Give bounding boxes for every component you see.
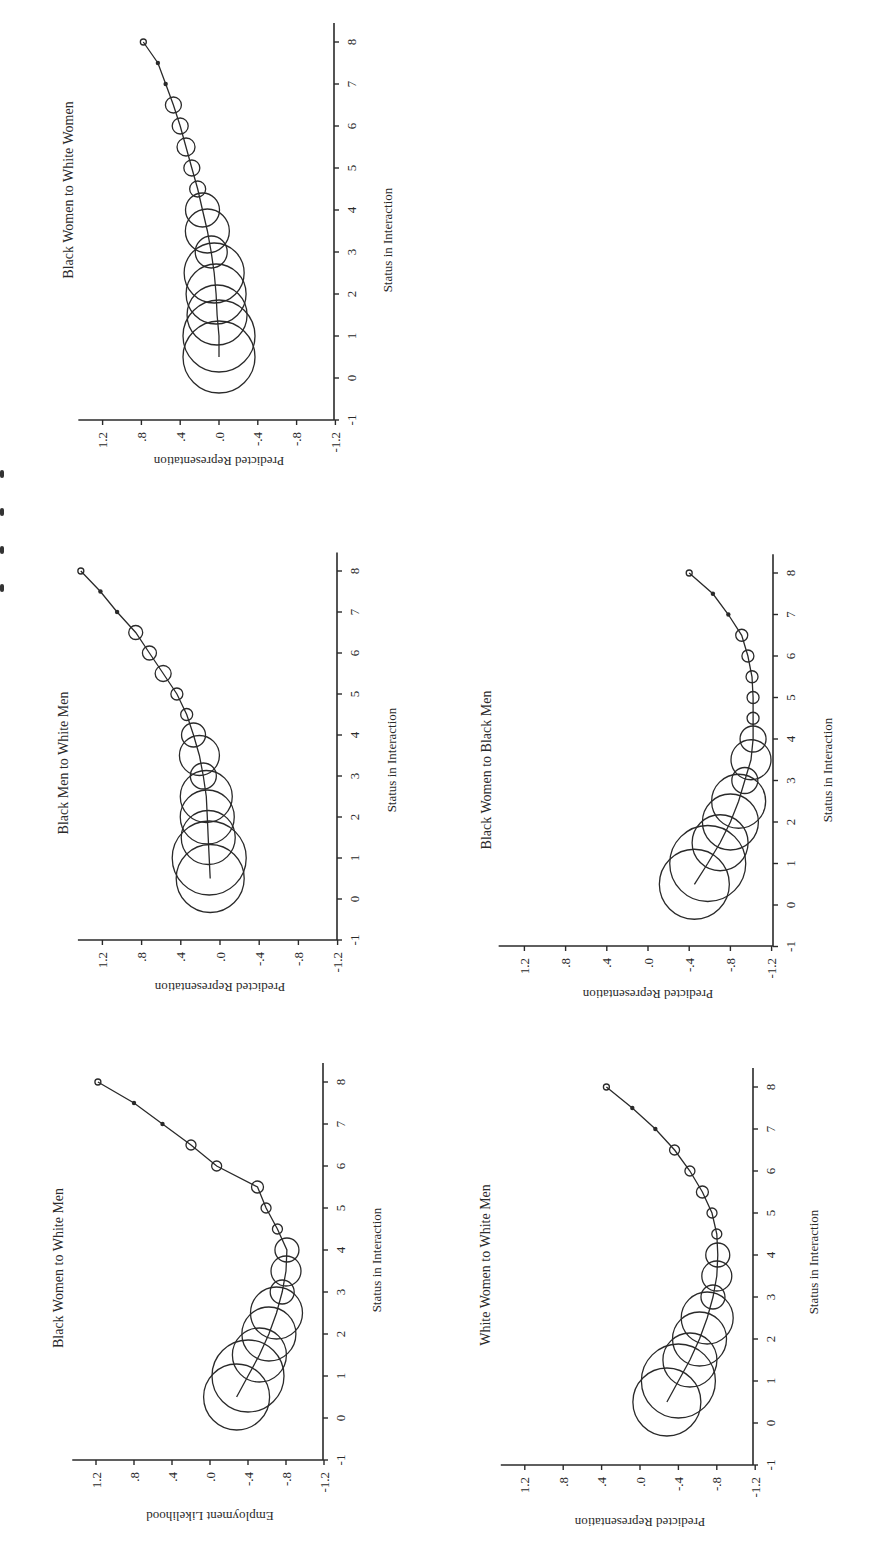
plot-area: 1.2.8.4.0-.4-.8-1.2-1012345678: [501, 1068, 778, 1497]
value-tick-label: -.4: [241, 1472, 256, 1487]
status-tick-label: 7: [344, 80, 359, 87]
status-tick-label: 6: [763, 1167, 778, 1174]
status-tick-label: 5: [333, 1205, 348, 1212]
status-tick-label: 0: [333, 1415, 348, 1422]
status-tick-label: 6: [347, 649, 362, 656]
value-tick-label: .4: [599, 958, 614, 968]
value-tick-label: .4: [594, 1477, 609, 1487]
value-tick-label: .0: [641, 958, 656, 968]
status-tick-label: 6: [783, 652, 798, 659]
y-axis-label: Predicted Representation: [153, 454, 284, 469]
status-tick-label: -1: [763, 1460, 778, 1471]
status-tick-label: 2: [347, 814, 362, 821]
status-tick-label: 3: [333, 1289, 348, 1296]
status-tick-label: 7: [333, 1120, 348, 1127]
value-tick-label: 1.2: [95, 432, 110, 448]
clipped-caption-fragment: [0, 470, 4, 810]
status-tick-label: 3: [783, 777, 798, 784]
status-tick-label: 2: [783, 819, 798, 826]
status-tick-label: 1: [763, 1378, 778, 1385]
plot-area: 1.2.8.4.0-.4-.8-1.2-1012345678: [499, 554, 798, 978]
plot-area: 1.2.8.4.0-.4-.8-1.2-1012345678: [72, 1063, 347, 1492]
status-tick-label: 2: [333, 1331, 348, 1338]
value-tick-label: -.4: [671, 1477, 686, 1492]
value-tick-label: -.4: [250, 432, 265, 447]
status-tick-label: 4: [344, 206, 359, 213]
value-tick-label: .8: [558, 958, 573, 968]
status-tick-label: 7: [763, 1125, 778, 1132]
value-tick-label: -.4: [252, 952, 267, 967]
fitted-curve: [606, 1087, 717, 1402]
status-tick-label: 8: [344, 39, 359, 46]
value-tick-label: .0: [212, 432, 227, 442]
status-tick-label: 6: [344, 122, 359, 129]
value-tick-label: -1.2: [764, 958, 779, 979]
panel-white-women-to-white-men: White Women to White Men Predicted Repre…: [478, 1068, 821, 1530]
value-tick-label: .8: [134, 432, 149, 442]
figure-page: Black Women to White Women Predicted Rep…: [0, 0, 874, 1566]
status-tick-label: 1: [347, 855, 362, 862]
status-tick-label: 3: [344, 249, 359, 256]
panel-title: Black Women to White Women: [61, 101, 76, 278]
figure-canvas: Black Women to White Women Predicted Rep…: [0, 0, 874, 1566]
status-tick-label: -1: [333, 1455, 348, 1466]
panel-title: White Women to White Men: [478, 1184, 493, 1346]
value-tick-label: -.8: [289, 432, 304, 446]
status-tick-label: 5: [347, 691, 362, 698]
value-tick-label: .4: [173, 432, 188, 442]
data-bubble: [633, 1368, 701, 1436]
status-tick-label: -1: [344, 415, 359, 426]
value-tick-label: -1.2: [328, 432, 343, 453]
status-tick-label: 6: [333, 1162, 348, 1169]
status-tick-label: 2: [763, 1336, 778, 1343]
panel-black-men-to-white-men: Black Men to White Men Predicted Represe…: [56, 553, 399, 995]
status-tick-label: 8: [783, 570, 798, 577]
value-tick-label: 1.2: [95, 952, 110, 968]
status-tick-label: 3: [763, 1294, 778, 1301]
x-axis-label: Status in Interaction: [806, 1209, 821, 1314]
value-tick-label: -.8: [723, 958, 738, 972]
fitted-curve: [81, 571, 210, 879]
panel-title: Black Women to Black Men: [479, 691, 494, 850]
value-tick-label: .4: [173, 952, 188, 962]
panel-title: Black Men to White Men: [56, 692, 71, 835]
status-tick-label: 0: [763, 1420, 778, 1427]
status-tick-label: 7: [783, 611, 798, 618]
value-tick-label: -.8: [279, 1472, 294, 1486]
y-axis-label: Predicted Representation: [574, 1515, 705, 1530]
status-tick-label: 8: [347, 568, 362, 575]
value-tick-label: -1.2: [317, 1472, 332, 1493]
fitted-curve: [98, 1082, 287, 1397]
status-tick-label: 1: [783, 860, 798, 867]
panel-black-women-to-white-men: Black Women to White Men Employment Like…: [51, 1063, 384, 1524]
status-tick-label: 4: [783, 735, 798, 742]
status-tick-label: 2: [344, 291, 359, 298]
status-tick-label: 3: [347, 773, 362, 780]
status-tick-label: 8: [763, 1084, 778, 1091]
status-tick-label: 5: [783, 694, 798, 701]
status-tick-label: 8: [333, 1079, 348, 1086]
status-tick-label: 7: [347, 608, 362, 615]
plot-area: 1.2.8.4.0-.4-.8-1.2-1012345678: [78, 23, 358, 452]
panel-black-women-to-black-men: Black Women to Black Men Predicted Repre…: [479, 554, 835, 1002]
status-tick-label: 0: [344, 375, 359, 382]
value-tick-label: .8: [556, 1477, 571, 1487]
value-tick-label: .8: [134, 952, 149, 962]
x-axis-label: Status in Interaction: [820, 717, 835, 822]
value-tick-label: .4: [165, 1472, 180, 1482]
status-tick-label: 4: [763, 1251, 778, 1258]
status-tick-label: -1: [783, 941, 798, 952]
value-tick-label: -.8: [291, 952, 306, 966]
value-tick-label: -.4: [682, 958, 697, 973]
status-tick-label: 4: [347, 731, 362, 738]
x-axis-label: Status in Interaction: [369, 1207, 384, 1312]
value-tick-label: -1.2: [748, 1477, 763, 1498]
status-tick-label: 5: [763, 1210, 778, 1217]
value-tick-label: .0: [633, 1477, 648, 1487]
value-tick-label: .0: [213, 952, 228, 962]
value-tick-label: 1.2: [89, 1472, 104, 1488]
plot-area: 1.2.8.4.0-.4-.8-1.2-1012345678: [78, 553, 362, 973]
fitted-curve: [143, 42, 219, 357]
fitted-curve: [689, 573, 753, 884]
status-tick-label: 1: [333, 1373, 348, 1380]
